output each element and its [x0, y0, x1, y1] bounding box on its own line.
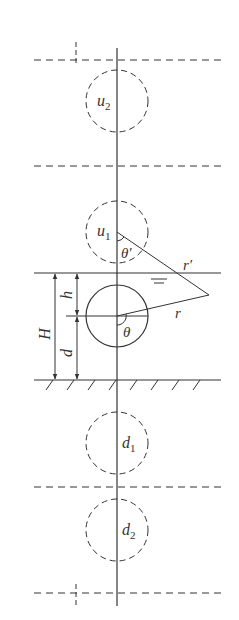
label-h: h: [58, 291, 75, 299]
r-prime-line: [117, 232, 209, 295]
label-d1: d1: [122, 434, 136, 454]
theta-prime-arc: [117, 237, 124, 241]
seabed-hatching: [46, 380, 200, 390]
label-r: r: [175, 305, 181, 321]
label-theta: θ: [123, 324, 131, 340]
label-d: d: [58, 348, 75, 357]
label-H: H: [36, 327, 53, 341]
label-u1: u1: [97, 222, 111, 242]
label-d2: d2: [122, 521, 136, 541]
r-line: [117, 295, 209, 316]
label-u2: u2: [97, 92, 111, 112]
cylinder-image-diagram: u2 u1 θ′ r′ r θ H h d d1 d2: [0, 0, 239, 620]
label-r-prime: r′: [183, 257, 193, 273]
label-theta-prime: θ′: [121, 245, 132, 261]
